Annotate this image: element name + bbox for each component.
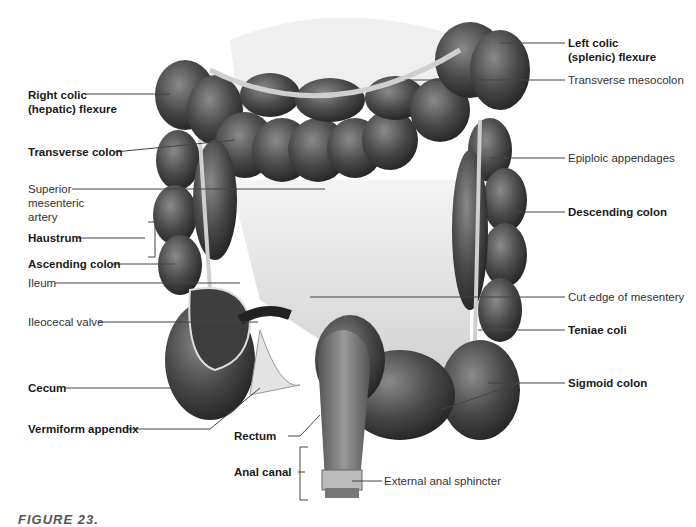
rectum	[318, 330, 370, 498]
label-line: (hepatic) flexure	[28, 102, 117, 116]
label-epiploic-appendages: Epiploic appendages	[568, 151, 675, 165]
label-transverse-colon: Transverse colon	[28, 145, 123, 159]
large-intestine-figure: Right colic (hepatic) flexure Transverse…	[0, 0, 696, 527]
label-line: artery	[28, 210, 84, 224]
label-teniae-coli: Teniae coli	[568, 323, 627, 337]
label-ascending-colon: Ascending colon	[28, 257, 121, 271]
label-line: Left colic	[568, 36, 656, 50]
label-external-anal-sphincter: External anal sphincter	[384, 474, 501, 488]
label-ileocecal-valve: Ileocecal valve	[28, 315, 103, 329]
label-line: Right colic	[28, 88, 117, 102]
label-descending-colon: Descending colon	[568, 205, 667, 219]
label-transverse-mesocolon: Transverse mesocolon	[568, 73, 684, 87]
label-line: Superior	[28, 182, 84, 196]
label-haustrum: Haustrum	[28, 231, 82, 245]
label-rectum: Rectum	[234, 429, 276, 443]
label-ileum: Ileum	[28, 276, 56, 290]
label-line: mesenteric	[28, 196, 84, 210]
ascending-colon	[153, 130, 237, 295]
figure-caption: FIGURE 23.	[18, 512, 99, 527]
cecum	[165, 288, 300, 420]
label-anal-canal: Anal canal	[234, 465, 292, 479]
label-vermiform-appendix: Vermiform appendix	[28, 422, 139, 436]
label-superior-mesenteric-artery: Superior mesenteric artery	[28, 182, 84, 224]
label-cut-edge-of-mesentery: Cut edge of mesentery	[568, 290, 684, 304]
label-right-colic-flexure: Right colic (hepatic) flexure	[28, 88, 117, 116]
label-cecum: Cecum	[28, 381, 66, 395]
label-line: (splenic) flexure	[568, 50, 656, 64]
label-sigmoid-colon: Sigmoid colon	[568, 376, 647, 390]
label-left-colic-flexure: Left colic (splenic) flexure	[568, 36, 656, 64]
caption-prefix: FIGURE 23.	[18, 512, 99, 527]
